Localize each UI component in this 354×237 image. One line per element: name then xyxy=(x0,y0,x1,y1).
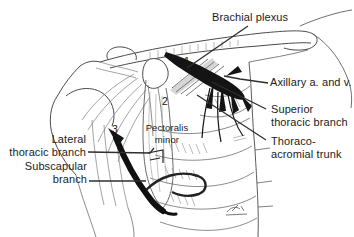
marker-3: 3 xyxy=(112,123,118,135)
label-axillary-vessels: Axillary a. and v. xyxy=(270,76,352,89)
label-superior-thoracic-branch: Superior thoracic branch xyxy=(271,103,348,129)
leader-axillary xyxy=(224,76,268,83)
label-lateral-thoracic-branch: Lateral thoracic branch xyxy=(0,133,86,159)
leader-thoracoacromial xyxy=(197,95,266,140)
label-pectoralis-minor: Pectoralis minor xyxy=(139,122,195,146)
marker-2: 2 xyxy=(162,95,168,107)
label-thoracoacromial-trunk: Thoraco- acromial trunk xyxy=(271,135,341,161)
label-subscapular-branch: Subscapular branch xyxy=(0,160,87,186)
label-brachial-plexus: Brachial plexus xyxy=(212,11,288,24)
ribs xyxy=(150,86,257,230)
leader-brachial-plexus xyxy=(187,26,248,68)
anatomy-figure: Brachial plexus Axillary a. and v. Super… xyxy=(0,0,354,237)
leader-lines xyxy=(88,26,268,181)
marker-1: 1 xyxy=(184,55,190,67)
